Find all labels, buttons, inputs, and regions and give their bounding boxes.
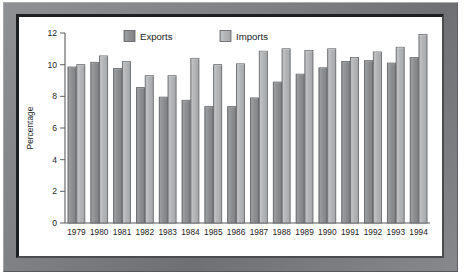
y-tick-label: 10 bbox=[47, 60, 57, 70]
x-tick-label: 1991 bbox=[341, 227, 360, 237]
bar-imports-1994 bbox=[419, 35, 427, 223]
x-tick-label: 1984 bbox=[181, 227, 200, 237]
x-tick-label: 1983 bbox=[158, 227, 177, 237]
bar-imports-1983 bbox=[168, 76, 176, 223]
y-tick-label: 2 bbox=[52, 186, 57, 196]
bar-imports-1990 bbox=[328, 49, 336, 223]
x-tick-label: 1989 bbox=[295, 227, 314, 237]
bar-exports-1984 bbox=[182, 100, 190, 223]
x-tick-label: 1982 bbox=[136, 227, 155, 237]
picture-frame-outer: 024681012Percentage197919801981198219831… bbox=[3, 2, 458, 272]
bar-imports-1988 bbox=[282, 49, 290, 223]
bar-imports-1991 bbox=[351, 58, 359, 223]
bar-imports-1982 bbox=[145, 76, 153, 223]
bar-chart: 024681012Percentage197919801981198219831… bbox=[19, 17, 442, 256]
bar-imports-1979 bbox=[77, 65, 85, 223]
y-axis-title: Percentage bbox=[25, 106, 35, 149]
x-tick-label: 1986 bbox=[227, 227, 246, 237]
x-tick-label: 1993 bbox=[387, 227, 406, 237]
bar-exports-1985 bbox=[205, 107, 213, 223]
x-tick-label: 1980 bbox=[90, 227, 109, 237]
bar-exports-1987 bbox=[250, 98, 258, 223]
bar-exports-1993 bbox=[387, 63, 395, 223]
x-tick-label: 1985 bbox=[204, 227, 223, 237]
bar-exports-1988 bbox=[273, 82, 281, 223]
y-tick-label: 6 bbox=[52, 123, 57, 133]
bar-exports-1983 bbox=[159, 97, 167, 223]
x-tick-label: 1988 bbox=[272, 227, 291, 237]
legend-label-exports: Exports bbox=[140, 31, 173, 42]
x-tick-label: 1994 bbox=[409, 227, 428, 237]
bar-exports-1982 bbox=[136, 88, 144, 223]
bar-imports-1986 bbox=[236, 64, 244, 223]
bar-imports-1984 bbox=[191, 58, 199, 223]
y-tick-label: 12 bbox=[47, 28, 57, 38]
y-tick-label: 8 bbox=[52, 91, 57, 101]
y-tick-label: 0 bbox=[52, 218, 57, 228]
legend-label-imports: Imports bbox=[236, 31, 268, 42]
bar-exports-1981 bbox=[114, 69, 122, 223]
bar-exports-1994 bbox=[410, 58, 418, 223]
x-tick-label: 1987 bbox=[250, 227, 269, 237]
x-axis-tick-labels: 1979198019811982198319841985198619871988… bbox=[67, 227, 428, 237]
legend-swatch-exports bbox=[124, 31, 135, 42]
bar-exports-1986 bbox=[228, 107, 236, 223]
y-axis-ticks: 024681012 bbox=[47, 28, 65, 228]
bar-imports-1980 bbox=[100, 56, 108, 223]
chart-legend: ExportsImports bbox=[124, 31, 268, 43]
bar-imports-1985 bbox=[214, 65, 222, 223]
bars-group bbox=[68, 35, 427, 223]
bar-imports-1981 bbox=[122, 62, 130, 224]
chart-svg: 024681012Percentage197919801981198219831… bbox=[19, 17, 442, 256]
bar-exports-1991 bbox=[342, 62, 350, 224]
bar-imports-1987 bbox=[259, 51, 267, 223]
x-tick-label: 1990 bbox=[318, 227, 337, 237]
x-tick-label: 1981 bbox=[113, 227, 132, 237]
bar-imports-1989 bbox=[305, 50, 313, 223]
x-tick-label: 1979 bbox=[67, 227, 86, 237]
legend-swatch-imports bbox=[220, 31, 231, 42]
bar-exports-1979 bbox=[68, 67, 76, 223]
bar-exports-1992 bbox=[365, 61, 373, 223]
bar-exports-1980 bbox=[91, 62, 99, 223]
picture-frame-inner: 024681012Percentage197919801981198219831… bbox=[16, 14, 444, 258]
bar-imports-1992 bbox=[373, 52, 381, 223]
y-tick-label: 4 bbox=[52, 155, 57, 165]
x-tick-label: 1992 bbox=[364, 227, 383, 237]
bar-exports-1990 bbox=[319, 68, 327, 223]
bar-imports-1993 bbox=[396, 47, 404, 223]
bar-exports-1989 bbox=[296, 74, 304, 223]
